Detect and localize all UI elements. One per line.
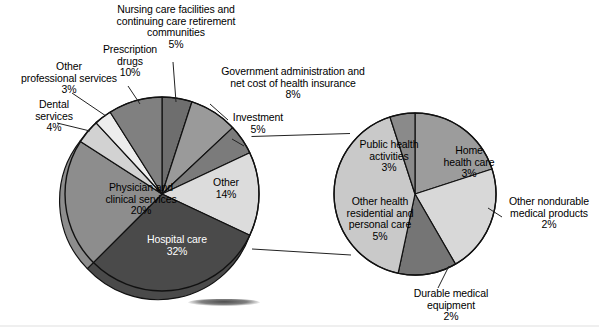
label-public-health-activities: Public health activities 3% [348, 139, 430, 174]
label-durable-medical-equipment: Durable medical equipment 2% [399, 288, 503, 323]
label-government-administration: Government administration and net cost o… [198, 66, 388, 101]
label-other-nondurable-medical-products: Other nondurable medical products 2% [499, 196, 599, 231]
label-other-health-residential: Other health residential and personal ca… [332, 196, 428, 242]
label-other-main: Other 14% [196, 177, 256, 200]
label-home-health-care: Home health care 3% [430, 145, 508, 180]
label-physician-clinical-services: Physician and clinical services 20% [82, 182, 200, 217]
leader-nursing-care [173, 62, 176, 102]
label-investment: Investment 5% [216, 112, 300, 135]
label-hospital-care: Hospital care 32% [122, 234, 232, 257]
scan-blob-artifact [188, 299, 260, 306]
label-other-professional-services: Other professional services 3% [4, 61, 134, 96]
label-dental-services: Dental services 4% [21, 99, 87, 134]
chart-canvas: Nursing care facilities and continuing c… [0, 0, 599, 327]
